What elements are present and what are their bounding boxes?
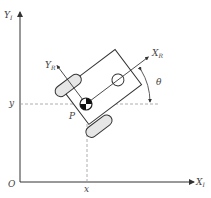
theta-arc [141, 70, 150, 102]
origin-label: O [8, 180, 15, 189]
robot-body [43, 19, 167, 140]
y-robot-label: YR [45, 61, 55, 71]
point-p-label: P [69, 112, 75, 121]
x-inertial-label: XI [196, 178, 205, 188]
theta-label: θ [156, 78, 161, 87]
x-robot-label: XR [152, 49, 163, 59]
robot-kinematics-diagram: YI XI O x y YR XR P θ [0, 0, 211, 198]
y-inertial-label: YI [4, 11, 12, 21]
point-p-marker [80, 98, 92, 110]
y-coordinate-label: y [9, 99, 14, 108]
x-coordinate-label: x [84, 185, 89, 194]
